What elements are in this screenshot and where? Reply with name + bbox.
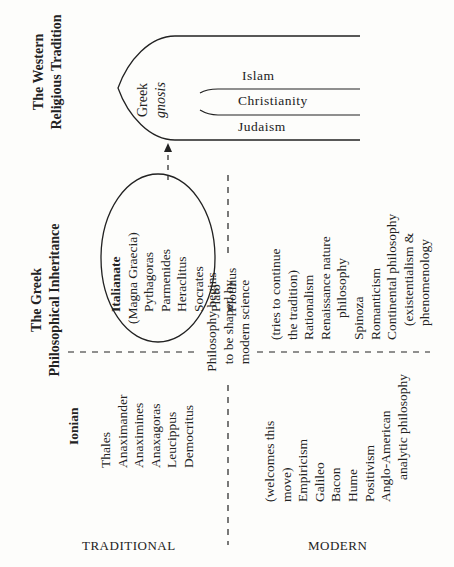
welcoming-line: Galileo — [312, 374, 329, 502]
welcoming-line: Positivism — [362, 374, 379, 502]
arrow-head-icon — [164, 143, 172, 152]
italianate-name: Pythagoras — [141, 184, 158, 324]
ionian-name: Leucippus — [164, 395, 181, 468]
divider-label: Philosophy begins to be shaped by modern… — [204, 261, 254, 383]
modern-welcoming-list: (welcomes this move) Empiricism Galileo … — [262, 374, 411, 502]
greek-title-line1: The Greek — [28, 200, 46, 400]
western-tradition-title: The Western Religious Tradition — [30, 2, 66, 142]
italianate-heading: Italianate — [108, 184, 125, 324]
religion-divider-lower — [200, 110, 360, 115]
italianate-name: Heraclitus — [174, 184, 191, 324]
western-title-line2: Religious Tradition — [48, 2, 66, 142]
continuing-line: Rationalism — [301, 214, 318, 340]
italianate-name: Parmenides — [158, 184, 175, 324]
italianate-subheading: (Magna Graecia) — [125, 184, 142, 324]
welcoming-line: Hume — [345, 374, 362, 502]
divider-line2: to be shaped by — [221, 261, 238, 383]
greek-gnosis-label: Greek gnosis — [134, 72, 170, 128]
religion-christianity: Christianity — [238, 93, 308, 109]
continuing-line: phenomenology — [417, 214, 434, 340]
modern-label: MODERN — [308, 538, 367, 554]
ionian-name: Anaximines — [131, 395, 148, 468]
divider-line1: Philosophy begins — [204, 261, 221, 383]
divider-line3: modern science — [237, 261, 254, 383]
welcoming-line: Empiricism — [295, 374, 312, 502]
religion-judaism: Judaism — [238, 119, 286, 135]
continuing-line: Spinoza — [351, 214, 368, 340]
welcoming-line: Anglo-American — [378, 374, 395, 502]
ionian-name: Democritus — [181, 395, 198, 468]
gnosis-line2: gnosis — [152, 72, 170, 128]
welcoming-line: move) — [279, 374, 296, 502]
ionian-name: Anaximander — [115, 395, 132, 468]
continuing-line: (tries to continue — [268, 214, 285, 340]
traditional-label: TRADITIONAL — [82, 538, 176, 554]
modern-continuing-list: (tries to continue the tradition) Ration… — [268, 214, 434, 340]
continuing-line: Romanticism — [368, 214, 385, 340]
welcoming-line: (welcomes this — [262, 374, 279, 502]
gnosis-line1: Greek — [134, 72, 152, 128]
ionian-list: Thales Anaximander Anaximines Anaxagoras… — [98, 395, 198, 468]
ionian-heading: Ionian — [66, 407, 83, 445]
continuing-line: Continental philosophy — [384, 214, 401, 340]
greek-inheritance-title: The Greek Philosophical Inheritance — [28, 200, 64, 400]
welcoming-line: analytic philosophy — [395, 374, 412, 502]
ionian-name: Thales — [98, 395, 115, 468]
greek-title-line2: Philosophical Inheritance — [46, 200, 64, 400]
continuing-line: philosophy — [334, 214, 351, 340]
welcoming-line: Bacon — [328, 374, 345, 502]
continuing-line: the tradition) — [285, 214, 302, 340]
religion-islam: Islam — [242, 68, 275, 84]
western-title-line1: The Western — [30, 2, 48, 142]
continuing-line: Renaissance nature — [318, 214, 335, 340]
continuing-line: (existentialism & — [401, 214, 418, 340]
ionian-name: Anaxagoras — [148, 395, 165, 468]
